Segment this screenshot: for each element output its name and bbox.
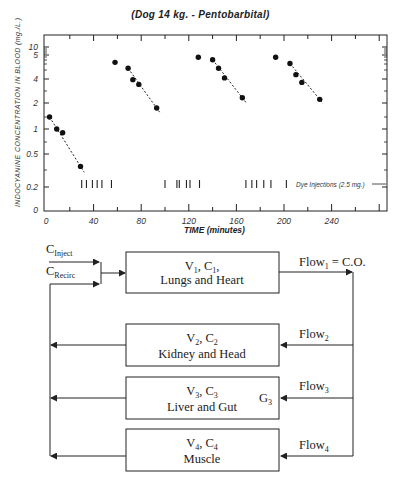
y-tick-label: 0 [33, 205, 38, 215]
data-point [125, 66, 130, 71]
data-point [47, 114, 52, 119]
concentration-chart: INDOCYANINE CONCENTRATION IN BLOOD (mg./… [0, 0, 401, 240]
dye-injection-legend: Dye Injections (2.5 mg.) [296, 181, 365, 189]
data-point [317, 97, 322, 102]
y-axis-ticks: 1054210.50.20 [26, 42, 387, 215]
x-tick-label: 160 [229, 216, 243, 226]
data-series [47, 55, 323, 173]
x-tick-label: 40 [89, 216, 99, 226]
c-recirc-label: CRecirc [46, 264, 76, 280]
x-axis-ticks: 04080120160200240 [44, 35, 380, 226]
data-point [130, 77, 135, 82]
data-point [78, 164, 83, 169]
data-point [299, 80, 304, 85]
data-point [216, 66, 221, 71]
x-tick-label: 200 [276, 216, 291, 226]
y-tick-label: 5 [33, 50, 38, 60]
y-tick-label: 0.5 [26, 149, 38, 159]
x-tick-label: 120 [182, 216, 196, 226]
compartment-2-vars: V2, C2 [186, 331, 218, 347]
compartment-2-name: Kidney and Head [158, 347, 246, 361]
compartment-4-name: Muscle [184, 452, 221, 466]
data-point [54, 126, 59, 131]
compartment-1-name: Lungs and Heart [160, 273, 244, 287]
x-axis-label: TIME (minutes) [184, 225, 245, 235]
data-point [154, 105, 159, 110]
compartment-3-vars: V3, C3 [186, 384, 218, 400]
y-axis-label: INDOCYANINE CONCENTRATION IN BLOOD (mg./… [14, 18, 22, 207]
compartment-4-vars: V4, C4 [186, 436, 218, 452]
y-tick-label: 0.2 [26, 182, 38, 192]
data-point [112, 60, 117, 65]
flow3-label: Flow3 [299, 379, 329, 395]
x-tick-label: 240 [324, 216, 339, 226]
data-point [210, 57, 215, 62]
data-point [222, 75, 227, 80]
fit-line [50, 117, 85, 172]
c-inject-label: CInject [46, 242, 73, 258]
x-tick-label: 0 [44, 216, 49, 226]
data-point [293, 72, 298, 77]
data-point [136, 82, 141, 87]
y-tick-label: 4 [33, 74, 38, 84]
compartment-3-name: Liver and Gut [167, 400, 238, 414]
data-point [60, 130, 65, 135]
flow4-label: Flow4 [299, 438, 329, 454]
data-point [196, 55, 201, 60]
data-point [240, 95, 245, 100]
data-point [273, 55, 278, 60]
y-tick-label: 1 [33, 124, 38, 134]
y-tick-label: 2 [32, 98, 38, 108]
x-tick-label: 80 [136, 216, 146, 226]
compartment-diagram: CInject CRecirc V1, C1, Lungs and Heart … [0, 240, 401, 485]
data-point [287, 61, 292, 66]
flow2-label: Flow2 [299, 327, 329, 343]
flow1-label: Flow1 = C.O. [299, 255, 366, 271]
